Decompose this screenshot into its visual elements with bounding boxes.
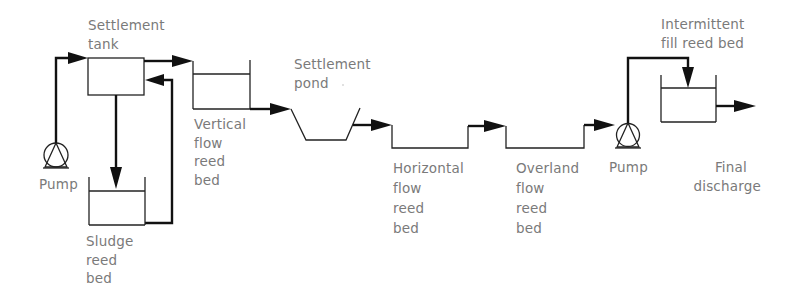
arrow-head-icon [371,119,392,131]
pipe-horizontal-to-overland [468,120,506,132]
arrow-head-icon [145,74,164,86]
arrow-head-icon [172,55,193,67]
pipe-tank-to-sludge-bed [110,95,122,189]
label-vertical-bed: Vertical flow reed bed [194,115,246,189]
label-final-discharge: Final discharge [689,158,761,195]
overland-flow-reed-bed [506,125,584,148]
pipe-vertical-bed-to-pond [250,103,291,115]
arrow-head-icon [270,103,291,115]
pump-right-icon [615,123,641,148]
settlement-pond [291,108,360,140]
label-settlement-pond: Settlement pond [294,55,371,92]
arrow-head-icon [68,52,88,64]
arrow-head-icon [110,167,122,189]
arrow-head-icon [594,119,615,131]
label-sludge-bed: Sludge reed bed [86,232,134,288]
label-pump-left: Pump [39,175,78,194]
pipe-tank-to-vertical-bed [144,55,193,67]
pipe-final-discharge [716,100,756,112]
arrow-head-icon [682,67,694,88]
horizontal-flow-reed-bed [392,125,468,148]
pump-left-icon [43,143,69,168]
label-overland-bed: Overland flow reed bed [516,158,579,238]
pipe-overland-to-pump [584,119,615,131]
pipe-pump-to-settlement-tank [56,52,88,143]
arrow-head-icon [484,120,506,132]
label-intermittent-bed: Intermittent fill reed bed [661,15,745,52]
arrow-head-icon [734,100,756,112]
label-horizontal-bed: Horizontal flow reed bed [393,158,464,238]
label-pump-right: Pump [609,158,648,177]
vertical-flow-reed-bed [193,60,250,109]
label-settlement-tank: Settlement tank [88,16,165,53]
settlement-tank [88,58,144,95]
pipe-pond-to-horizontal-bed [353,119,392,131]
pipe-sludge-bed-return [145,74,172,223]
